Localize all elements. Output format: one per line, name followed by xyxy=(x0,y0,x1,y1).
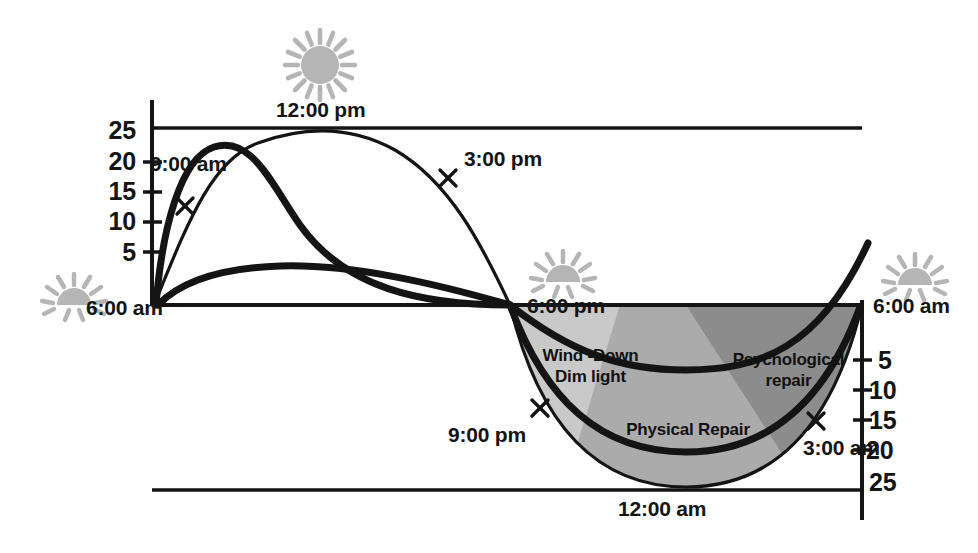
right-axis-tick-5: 5 xyxy=(878,348,892,373)
circadian-rhythm-chart xyxy=(0,0,978,553)
right-axis-tick-10: 10 xyxy=(869,378,896,403)
left-axis-tick-20: 20 xyxy=(100,149,136,174)
left-axis-tick-5: 5 xyxy=(100,240,136,265)
time-label-evening: 9:00 pm xyxy=(448,424,526,445)
x-marker-icon-3pm xyxy=(440,170,456,186)
time-label-night: 3:00 am xyxy=(803,437,880,458)
left-axis-tick-10: 10 xyxy=(100,209,136,234)
left-axis-tick-25: 25 xyxy=(100,118,136,143)
time-label-midnight: 12:00 am xyxy=(618,498,706,519)
x-marker-icon-9am xyxy=(177,198,193,214)
right-axis-tick-25: 25 xyxy=(869,470,896,495)
zone-label-wind-down-line2: Dim light xyxy=(518,366,663,387)
time-label-sunset: 6:00 pm xyxy=(527,295,605,316)
time-label-noon: 12:00 pm xyxy=(276,99,365,120)
right-axis-tick-15: 15 xyxy=(869,408,896,433)
zone-label-psychological-repair-line1: Psychological xyxy=(726,349,851,370)
time-label-sunrise-right: 6:00 am xyxy=(873,295,950,316)
half-sun-icon-sunset xyxy=(531,251,595,297)
left-axis-tick-15: 15 xyxy=(100,179,136,204)
zone-label-psychological-repair: Psychological repair xyxy=(726,349,851,392)
zone-label-physical-repair-line1: Physical Repair xyxy=(613,419,763,440)
full-sun-icon-noon xyxy=(285,30,355,100)
time-label-sunrise-left: 6:00 am xyxy=(86,297,163,318)
x-marker-icon-9pm xyxy=(532,400,548,416)
zone-label-wind-down: Wind -Down Dim light xyxy=(518,345,663,388)
zone-label-physical-repair: Physical Repair xyxy=(613,419,763,440)
zone-label-psychological-repair-line2: repair xyxy=(726,370,851,391)
diagram-canvas: 25 20 15 10 5 5 10 15 20 25 6:00 am 9:00… xyxy=(0,0,978,553)
time-label-morning: 9:00 am xyxy=(150,153,227,174)
time-label-afternoon: 3:00 pm xyxy=(464,148,542,169)
zone-label-wind-down-line1: Wind -Down xyxy=(518,345,663,366)
night-zone-group xyxy=(500,300,872,500)
